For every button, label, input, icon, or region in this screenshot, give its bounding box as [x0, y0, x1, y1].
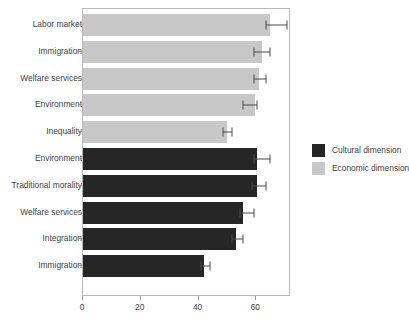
bar: [83, 148, 257, 170]
error-bar-cap-high: [269, 47, 270, 56]
x-axis-tick: [255, 296, 256, 300]
error-bar: [240, 212, 254, 213]
error-bar-cap-low: [239, 208, 240, 217]
error-bar-cap-high: [265, 181, 266, 190]
bar: [83, 14, 270, 36]
x-axis-tick-label: 60: [251, 302, 260, 312]
bar: [83, 41, 262, 63]
y-axis-label: Immigration: [8, 46, 82, 56]
x-axis-tick-label: 0: [80, 302, 85, 312]
bar-row: [83, 14, 291, 36]
legend-swatch-cultural-icon: [312, 144, 325, 157]
bar-row: [83, 121, 291, 143]
bar-row: [83, 228, 291, 250]
error-bar: [243, 105, 257, 106]
y-axis-label: Environment: [8, 99, 82, 109]
error-bar: [254, 78, 266, 79]
legend: Cultural dimension Economic dimension: [312, 141, 404, 177]
bar-row: [83, 41, 291, 63]
x-axis: 0204060: [82, 296, 290, 319]
error-bar-cap-low: [254, 155, 255, 164]
error-bar-cap-high: [286, 21, 287, 30]
bar: [83, 255, 204, 277]
error-bar: [254, 159, 269, 160]
y-axis-label: Traditional morality: [8, 180, 82, 190]
bar: [83, 228, 236, 250]
x-axis-tick: [198, 296, 199, 300]
error-bar-cap-low: [222, 128, 223, 137]
legend-swatch-economic-icon: [312, 162, 325, 175]
error-bar-cap-low: [265, 21, 266, 30]
x-axis-tick: [82, 296, 83, 300]
error-bar-cap-low: [243, 101, 244, 110]
x-axis-tick-label: 40: [193, 302, 202, 312]
bars-layer: [83, 9, 289, 295]
bar: [83, 121, 227, 143]
error-bar-cap-high: [257, 101, 258, 110]
error-bar-cap-high: [265, 74, 266, 83]
y-axis-label: Environment: [8, 153, 82, 163]
plot-panel: [82, 8, 290, 296]
x-axis-tick: [140, 296, 141, 300]
bar-row: [83, 202, 291, 224]
error-bar-cap-low: [200, 262, 201, 271]
bar-row: [83, 68, 291, 90]
bar-row: [83, 175, 291, 197]
error-bar-cap-low: [231, 235, 232, 244]
bar: [83, 202, 243, 224]
error-bar: [266, 25, 287, 26]
bar-row: [83, 255, 291, 277]
error-bar: [232, 239, 243, 240]
legend-item-cultural: Cultural dimension: [312, 141, 404, 159]
y-axis-label: Integration: [8, 233, 82, 243]
bar: [83, 175, 257, 197]
error-bar-cap-high: [243, 235, 244, 244]
y-axis-label: Immigration: [8, 260, 82, 270]
error-bar-cap-low: [252, 181, 253, 190]
bar: [83, 68, 259, 90]
error-bar-cap-high: [231, 128, 232, 137]
legend-label-economic: Economic dimension: [332, 163, 409, 173]
error-bar-cap-low: [254, 47, 255, 56]
y-axis: Labor marketImmigrationWelfare servicesE…: [0, 8, 82, 296]
bar: [83, 94, 255, 116]
legend-label-cultural: Cultural dimension: [332, 145, 401, 155]
bar-row: [83, 94, 291, 116]
bar-row: [83, 148, 291, 170]
y-axis-label: Labor market: [8, 19, 82, 29]
error-bar-cap-high: [254, 208, 255, 217]
y-axis-label: Welfare services: [8, 73, 82, 83]
y-axis-label: Welfare services: [8, 207, 82, 217]
error-bar-cap-low: [254, 74, 255, 83]
x-axis-tick-label: 20: [135, 302, 144, 312]
y-axis-label: Inequality: [8, 126, 82, 136]
error-bar-cap-high: [210, 262, 211, 271]
error-bar: [252, 185, 266, 186]
error-bar-cap-high: [269, 155, 270, 164]
error-bar: [254, 51, 269, 52]
legend-item-economic: Economic dimension: [312, 159, 404, 177]
